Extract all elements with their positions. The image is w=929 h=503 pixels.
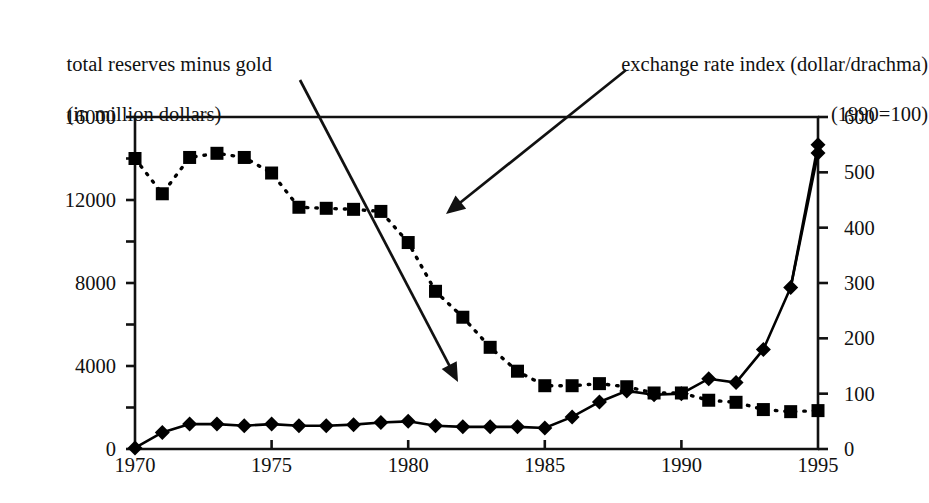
arrow-to-reserves-series <box>300 80 458 382</box>
data-point-diamond <box>537 420 552 435</box>
data-point-square <box>320 202 333 215</box>
data-point-square <box>347 203 360 216</box>
data-point-diamond <box>319 418 334 433</box>
data-point-diamond <box>237 418 252 433</box>
data-point-diamond <box>428 418 443 433</box>
series-exchange-rate <box>128 137 826 455</box>
data-point-square <box>593 377 606 390</box>
data-point-square <box>484 341 497 354</box>
data-point-square <box>210 147 223 160</box>
data-point-diamond <box>182 417 197 432</box>
data-point-square <box>429 285 442 298</box>
arrow-to-exchange-rate-series <box>446 70 626 214</box>
data-point-diamond <box>291 418 306 433</box>
data-point-square <box>757 403 770 416</box>
data-point-diamond <box>510 419 525 434</box>
data-point-square <box>812 404 825 417</box>
data-point-square <box>183 151 196 164</box>
data-point-diamond <box>701 371 716 386</box>
axis-ticks <box>126 117 828 449</box>
data-point-diamond <box>373 415 388 430</box>
data-point-diamond <box>264 417 279 432</box>
data-point-diamond <box>455 419 470 434</box>
data-point-square <box>784 405 797 418</box>
data-point-square <box>702 394 715 407</box>
data-point-square <box>511 365 524 378</box>
data-point-square <box>538 379 551 392</box>
data-point-diamond <box>592 394 607 409</box>
data-point-diamond <box>401 414 416 429</box>
data-point-diamond <box>209 417 224 432</box>
data-point-square <box>292 201 305 214</box>
data-point-diamond <box>483 419 498 434</box>
data-point-diamond <box>155 425 170 440</box>
data-point-square <box>730 396 743 409</box>
chart-figure: total reserves minus gold (in million do… <box>0 0 929 503</box>
data-point-square <box>456 311 469 324</box>
series-total-reserves <box>129 147 825 418</box>
data-point-diamond <box>565 409 580 424</box>
data-point-square <box>566 379 579 392</box>
plot-frame <box>135 117 818 449</box>
data-point-square <box>265 167 278 180</box>
data-point-square <box>374 205 387 218</box>
data-point-square <box>402 236 415 249</box>
data-point-diamond <box>346 417 361 432</box>
data-point-diamond <box>128 440 143 455</box>
plot-area <box>0 0 929 503</box>
data-point-square <box>129 152 142 165</box>
data-point-square <box>238 151 251 164</box>
data-point-square <box>156 187 169 200</box>
